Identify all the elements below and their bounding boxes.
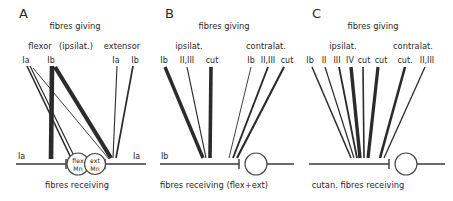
fiber-label-extensor-ib: Ib <box>131 56 138 65</box>
fiber-label-flexor-ib: Ib <box>47 56 54 65</box>
panel-letter-a: A <box>19 6 28 21</box>
fiber-contra-ii-iii <box>233 67 268 158</box>
panel-b: B fibres giving ipsilat. contralat. Ib I… <box>151 0 301 201</box>
panel-a: A fibres giving flexor (ipsilat.) extens… <box>0 0 151 201</box>
group-label-flexor: flexor <box>28 41 52 51</box>
fiber-label-extensor-ia: Ia <box>112 56 119 65</box>
ext-mn-label-line2: Mn <box>90 165 99 172</box>
fiber-label-contra-ii-iii: II,III <box>420 56 434 65</box>
panel-b-diagram: B fibres giving ipsilat. contralat. Ib I… <box>151 0 301 201</box>
fiber-ipsi-ib <box>312 67 351 158</box>
fiber-ipsi-cut-1 <box>363 67 364 158</box>
fiber-contra-ii-iii <box>384 67 425 158</box>
flex-mn-label-line1: flex <box>72 157 84 164</box>
fiber-flexor-ia-to-ext-mn <box>33 68 109 159</box>
panel-letter-b: B <box>165 6 174 21</box>
group-label-ipsilat: ipsilat. <box>329 41 356 51</box>
end-label-left-ia: Ia <box>18 152 25 161</box>
fiber-ipsi-ii <box>325 67 354 158</box>
panel-c-diagram: C fibres giving ipsilat. contralat. Ib I… <box>301 0 453 201</box>
fiber-label-contra-ib: Ib <box>247 56 254 65</box>
figure-root: A fibres giving flexor (ipsilat.) extens… <box>0 0 453 201</box>
fiber-label-ipsi-ib: Ib <box>306 56 313 65</box>
panel-b-header: fibres giving <box>198 21 249 31</box>
fiber-ipsi-ib <box>165 67 203 158</box>
fiber-ipsi-cut-2 <box>368 67 378 158</box>
group-label-contralat: contralat. <box>246 41 286 51</box>
panel-c-header: fibres giving <box>347 21 398 31</box>
group-label-ipsilat: ipsilat. <box>175 41 202 51</box>
fiber-label-ipsi-iii: III <box>333 56 340 65</box>
fiber-flexor-ib-to-flex-mn <box>51 66 52 159</box>
fiber-ipsi-cut <box>210 67 211 158</box>
end-label-left-ib: Ib <box>161 152 168 161</box>
fiber-contra-cut <box>237 67 284 158</box>
panel-c: C fibres giving ipsilat. contralat. Ib I… <box>301 0 453 201</box>
panel-a-header: fibres giving <box>49 21 100 31</box>
panel-a-diagram: A fibres giving flexor (ipsilat.) extens… <box>0 0 151 201</box>
panel-b-footer: fibres receiving (flex+ext) <box>160 180 268 190</box>
group-label-extensor: extensor <box>104 41 141 51</box>
interneuron-circle <box>245 153 267 175</box>
group-label-contralat: contralat. <box>393 41 433 51</box>
panel-c-footer: cutan. fibres receiving <box>312 180 405 190</box>
fiber-label-ipsi-ii-iii: II,III <box>180 56 194 65</box>
fiber-label-ipsi-cut: cut <box>206 56 219 65</box>
fiber-ipsi-iv <box>351 67 360 158</box>
fiber-extensor-ib-to-ext-mn <box>116 66 133 158</box>
fiber-contra-ib <box>229 67 251 158</box>
fiber-label-ipsi-cut-1: cut <box>358 56 371 65</box>
ext-mn-label-line1: ext <box>90 157 100 164</box>
end-label-right-ia: Ia <box>133 152 140 161</box>
interneuron-circle <box>395 153 417 175</box>
fiber-label-contra-cut: cut <box>281 56 294 65</box>
panel-a-footer: fibres receiving <box>45 180 109 190</box>
fiber-label-ipsi-ib: Ib <box>160 56 167 65</box>
fiber-label-ipsi-cut-2: cut <box>375 56 388 65</box>
fiber-flexor-ib-to-ext-mn <box>55 67 111 158</box>
fiber-label-contra-ii-iii: II,III <box>261 56 275 65</box>
fiber-label-ipsi-ii: II <box>322 56 327 65</box>
fiber-label-flexor-ia: Ia <box>22 56 29 65</box>
fiber-contra-cut <box>380 67 405 158</box>
fiber-label-ipsi-iv: IV <box>346 56 354 65</box>
fiber-extensor-ia-to-ext-mn <box>113 66 117 158</box>
flex-mn-label-line2: Mn <box>73 165 82 172</box>
fiber-label-contra-cut: cut. <box>397 56 412 65</box>
group-label-ipsilat: (ipsilat.) <box>59 41 93 51</box>
panel-letter-c: C <box>312 6 321 21</box>
